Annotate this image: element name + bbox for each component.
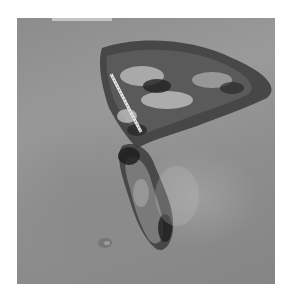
slough-patch — [141, 91, 193, 109]
slough-patch — [133, 179, 149, 207]
necrotic-spot — [220, 82, 244, 94]
scar-spot — [104, 241, 110, 245]
necrotic-spot — [118, 147, 140, 165]
top-edge-highlight — [52, 18, 112, 21]
necrotic-spot — [143, 79, 171, 93]
wound-illustration — [17, 18, 275, 284]
skin-highlight — [155, 166, 199, 226]
wound-photograph — [17, 18, 275, 284]
